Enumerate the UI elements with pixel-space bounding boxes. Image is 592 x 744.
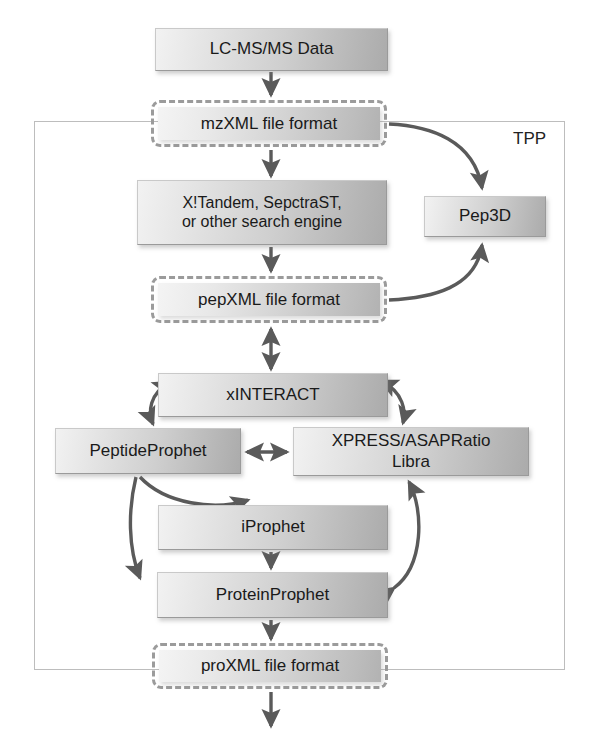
node-label-search_engine: X!Tandem, SepctraST,or other search engi… xyxy=(182,194,342,232)
tpp-container-label: TPP xyxy=(513,129,546,149)
node-lcmsms: LC-MS/MS Data xyxy=(155,28,388,71)
node-search_engine: X!Tandem, SepctraST,or other search engi… xyxy=(137,180,387,245)
node-label-proxml: proXML file format xyxy=(159,650,381,682)
node-label-iprophet: iProphet xyxy=(241,517,304,537)
diagram-canvas: TPP xyxy=(0,0,592,744)
node-xinteract: xINTERACT xyxy=(158,373,388,417)
node-label-proteinprophet: ProteinProphet xyxy=(216,585,329,605)
node-pepxml: pepXML file format xyxy=(151,276,387,323)
node-label-xpress: XPRESS/ASAPRatioLibra xyxy=(332,431,491,471)
node-pep3d: Pep3D xyxy=(424,196,546,237)
node-mzxml: mzXML file format xyxy=(151,100,387,147)
node-label-peptideprophet: PeptideProphet xyxy=(89,441,206,461)
node-xpress: XPRESS/ASAPRatioLibra xyxy=(293,427,529,476)
node-proteinprophet: ProteinProphet xyxy=(157,572,388,618)
node-peptideprophet: PeptideProphet xyxy=(55,428,241,474)
node-label-mzxml: mzXML file format xyxy=(158,107,380,140)
node-iprophet: iProphet xyxy=(158,505,388,550)
node-label-pep3d: Pep3D xyxy=(459,206,511,226)
node-label-xinteract: xINTERACT xyxy=(226,385,320,405)
node-label-lcmsms: LC-MS/MS Data xyxy=(210,39,334,59)
node-proxml: proXML file format xyxy=(152,643,388,689)
node-label-pepxml: pepXML file format xyxy=(158,283,380,316)
